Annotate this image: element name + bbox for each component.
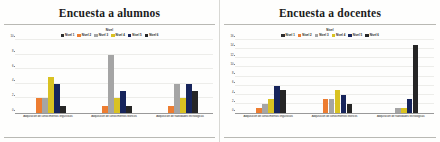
page-title-alumnos: Encuesta a alumnos: [0, 0, 219, 21]
bar[interactable]: [407, 99, 412, 113]
y-axis-docentes: 0246810121416: [224, 40, 235, 114]
bar[interactable]: [335, 90, 340, 113]
legend-swatch-icon-nivel-4: [111, 34, 115, 38]
bar-group: [317, 40, 352, 113]
bar-groups-docentes: [235, 40, 434, 113]
legend-item-nivel-1[interactable]: Nivel 1: [61, 33, 75, 38]
plot-area-alumnos: 0246810: [4, 40, 213, 114]
legend-item-doc-nivel-6[interactable]: Nivel 6: [365, 33, 379, 38]
bar[interactable]: [256, 108, 261, 113]
x-axis-labels-docentes: Adquisición de conocimientos lingüístico…: [235, 115, 434, 118]
legend-label-doc-nivel-4: Nivel 4: [336, 33, 345, 38]
x-label-doc-2: Adquisición de habilidades tecnológicas: [370, 115, 432, 118]
bar[interactable]: [401, 108, 406, 113]
bar-group: [251, 40, 286, 113]
legend-item-doc-nivel-2[interactable]: Nivel 2: [298, 33, 312, 38]
legend-swatch-icon-nivel-6: [145, 34, 149, 38]
legend-item-nivel-5[interactable]: Nivel 5: [128, 33, 142, 38]
bar-group: [30, 40, 65, 113]
bar[interactable]: [174, 84, 179, 113]
legend-swatch-icon-nivel-2: [77, 34, 81, 38]
title-divider-right: [224, 24, 436, 25]
bar[interactable]: [54, 84, 59, 113]
y-tick-label: 8: [12, 49, 14, 53]
bar[interactable]: [186, 84, 191, 113]
legend-item-nivel-4[interactable]: Nivel 4: [111, 33, 125, 38]
bottom-divider-left: [4, 137, 215, 138]
bar[interactable]: [268, 99, 273, 113]
legend-label-nivel-4: Nivel 4: [116, 33, 125, 38]
plot-area-docentes: 0246810121416: [224, 40, 434, 114]
bar-group: [162, 40, 197, 113]
legend-swatch-icon-nivel-1: [61, 34, 65, 38]
legend-label-nivel-3: Nivel 3: [99, 33, 108, 38]
legend-item-nivel-6[interactable]: Nivel 6: [145, 33, 159, 38]
legend-docentes: Nivel Nivel 1 Nivel 2 Nivel 3 Nivel 4: [220, 28, 440, 38]
legend-label-nivel-1: Nivel 1: [65, 33, 74, 38]
chart-panel-alumnos: Encuesta a alumnos Nivel Nivel 1 Nivel 2…: [0, 0, 220, 142]
bar[interactable]: [274, 86, 279, 113]
bar[interactable]: [329, 99, 334, 113]
legend-item-nivel-3[interactable]: Nivel 3: [94, 33, 108, 38]
y-tick-label: 16: [230, 34, 233, 38]
bar[interactable]: [48, 77, 53, 114]
y-tick-label: 2: [232, 99, 234, 103]
y-tick-label: 10: [10, 34, 13, 38]
bar[interactable]: [395, 108, 400, 113]
legend-label-doc-nivel-2: Nivel 2: [302, 33, 311, 38]
legend-label-doc-nivel-3: Nivel 3: [319, 33, 328, 38]
bar[interactable]: [102, 106, 107, 113]
y-tick-label: 0: [232, 108, 234, 112]
legend-swatch-icon-doc-nivel-5: [348, 34, 352, 38]
x-label-0: Adquisición de conocimientos lingüístico…: [17, 115, 79, 118]
bar[interactable]: [262, 104, 267, 113]
legend-item-doc-nivel-1[interactable]: Nivel 1: [281, 33, 295, 38]
y-tick-label: 6: [232, 80, 234, 84]
bar[interactable]: [280, 90, 285, 113]
legend-item-doc-nivel-3[interactable]: Nivel 3: [315, 33, 329, 38]
bar[interactable]: [180, 98, 185, 113]
x-axis-labels-alumnos: Adquisición de conocimientos lingüístico…: [15, 115, 213, 118]
legend-item-doc-nivel-5[interactable]: Nivel 5: [348, 33, 362, 38]
legend-swatch-icon-doc-nivel-4: [332, 34, 336, 38]
legend-alumnos: Nivel Nivel 1 Nivel 2 Nivel 3 Nivel 4: [0, 28, 219, 38]
bar[interactable]: [413, 45, 418, 113]
legend-title-docentes: Nivel: [220, 28, 440, 32]
bar[interactable]: [323, 99, 328, 113]
legend-item-doc-nivel-4[interactable]: Nivel 4: [332, 33, 346, 38]
y-tick-label: 6: [12, 64, 14, 68]
x-label-doc-0: Adquisición de conocimientos lingüístico…: [237, 115, 299, 118]
title-divider-left: [4, 24, 215, 25]
bar-groups-alumnos: [15, 40, 213, 113]
legend-label-nivel-6: Nivel 6: [149, 33, 158, 38]
bar-group: [96, 40, 131, 113]
legend-items-alumnos: Nivel 1 Nivel 2 Nivel 3 Nivel 4 Nivel 5: [0, 33, 219, 38]
y-tick-label: 4: [232, 90, 234, 94]
legend-label-doc-nivel-5: Nivel 5: [353, 33, 362, 38]
bar[interactable]: [108, 55, 113, 113]
bar[interactable]: [168, 106, 173, 113]
legend-label-doc-nivel-1: Nivel 1: [286, 33, 295, 38]
bar[interactable]: [341, 95, 346, 113]
x-label-2: Adquisición de habilidades tecnológicas: [149, 115, 211, 118]
bar[interactable]: [114, 98, 119, 113]
legend-title-alumnos: Nivel: [0, 28, 219, 32]
legend-label-nivel-2: Nivel 2: [82, 33, 91, 38]
bar[interactable]: [120, 91, 125, 113]
bar[interactable]: [36, 98, 41, 113]
bar[interactable]: [347, 104, 352, 113]
y-tick-label: 0: [12, 108, 14, 112]
legend-label-doc-nivel-6: Nivel 6: [370, 33, 379, 38]
y-tick-label: 12: [230, 53, 233, 57]
bottom-divider-right: [224, 137, 436, 138]
legend-swatch-icon-doc-nivel-6: [365, 34, 369, 38]
x-label-1: Adquisición de conocimientos teóricos: [83, 115, 145, 118]
bar[interactable]: [42, 98, 47, 113]
legend-swatch-icon-doc-nivel-1: [281, 34, 285, 38]
x-label-doc-1: Adquisición de conocimientos teóricos: [303, 115, 365, 118]
bar[interactable]: [192, 91, 197, 113]
bar[interactable]: [126, 106, 131, 113]
bar[interactable]: [60, 106, 65, 113]
legend-item-nivel-2[interactable]: Nivel 2: [77, 33, 91, 38]
y-tick-label: 2: [12, 93, 14, 97]
